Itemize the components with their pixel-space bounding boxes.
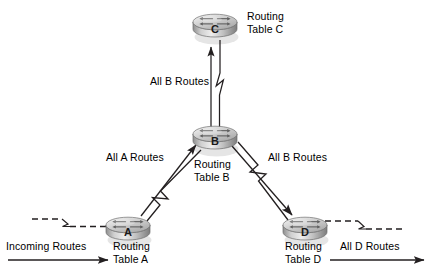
- router-c-table-label-line1: Routing: [247, 10, 284, 23]
- flow-label-all-d-routes: All D Routes: [340, 240, 400, 253]
- dashed-inbound-line: [32, 219, 108, 227]
- router-letter-c: C: [207, 23, 223, 35]
- link-b-to-c: [211, 40, 223, 130]
- link-b-to-c-strand-down: [216, 40, 223, 130]
- router-letter-b: B: [207, 135, 223, 147]
- router-a-table-label-line1: Routing: [113, 240, 150, 253]
- flow-label-incoming-routes: Incoming Routes: [6, 240, 86, 253]
- router-c-table-label-line2: Table C: [247, 23, 283, 36]
- router-b-table-label-line2: Table B: [194, 171, 230, 184]
- router-d-table-label-line1: Routing: [285, 240, 322, 253]
- link-label-b-to-c: All B Routes: [150, 75, 209, 88]
- dashed-outbound-line: [325, 221, 404, 229]
- link-label-b-to-d: All B Routes: [268, 151, 327, 164]
- router-d-table-label-line2: Table D: [285, 253, 321, 266]
- router-b-table-label-line1: Routing: [194, 158, 231, 171]
- router-letter-d: D: [297, 226, 313, 238]
- diagram-canvas: C B A D Routing Table C Routing Table B …: [0, 0, 431, 277]
- router-letter-a: A: [120, 226, 136, 238]
- router-a-table-label-line2: Table A: [113, 253, 148, 266]
- link-label-a-to-b: All A Routes: [106, 151, 164, 164]
- dashed-inbound-break-zigzag: [62, 219, 70, 227]
- dashed-outbound-break-zigzag: [358, 221, 366, 229]
